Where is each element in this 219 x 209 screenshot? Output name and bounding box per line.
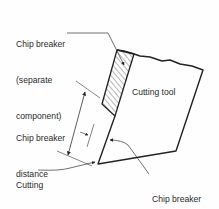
chip-breaker-component: [102, 50, 134, 116]
label-chip-breaker-height: Chip breaker height: [152, 169, 201, 209]
dimension-chip-breaker-distance: [68, 92, 85, 155]
label-cutting-edge: Cutting edge: [16, 155, 43, 209]
dimension-small-offset: [80, 124, 94, 147]
label-cutting-tool: Cutting tool: [132, 86, 175, 98]
chip-breaker-diagram: Chip breaker (separate component) Cuttin…: [0, 0, 219, 209]
